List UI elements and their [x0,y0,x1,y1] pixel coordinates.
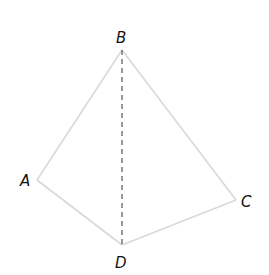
vertex-label-a: A [19,172,30,190]
quadrilateral-diagram: B A C D [0,0,269,275]
vertex-label-c: C [241,193,252,211]
vertex-label-b: B [116,29,126,47]
edge-b-c [122,50,236,200]
vertex-label-d: D [115,254,127,272]
edge-c-d [122,200,236,245]
edge-d-a [37,180,122,245]
edge-a-b [37,50,122,180]
